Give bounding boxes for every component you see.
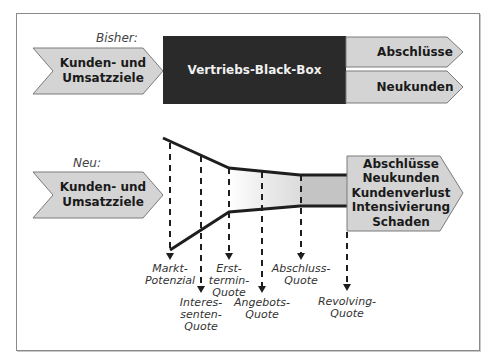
stage-label-angebots-quote: Angebots- Quote xyxy=(227,297,297,321)
section-label-after: Neu: xyxy=(73,156,101,170)
after-output-item: Abschlüsse xyxy=(347,157,455,171)
stage-label-ersttermin-quote: Erst- termin- Quote xyxy=(199,263,259,299)
before-output-1-text: Abschlüsse xyxy=(370,45,460,59)
section-label-before: Bisher: xyxy=(96,31,138,45)
stage-label-abschluss-quote: Abschluss- Quote xyxy=(266,263,336,287)
funnel-bottom-edge xyxy=(170,206,347,250)
black-box-text: Vertriebs-Black-Box xyxy=(163,63,346,77)
after-output-item: Kundenverlust xyxy=(347,186,455,200)
funnel-top-edge xyxy=(163,138,347,175)
funnel-neck xyxy=(300,175,347,206)
stage-label-interessenten-quote: Interes- senten- Quote xyxy=(171,297,231,333)
after-outputs-list: Abschlüsse Neukunden Kundenverlust Inten… xyxy=(347,157,455,229)
after-input-text: Kunden- und Umsatzziele xyxy=(48,180,158,210)
before-output-2-text: Neukunden xyxy=(370,80,460,94)
stage-label-revolving-quote: Revolving- Quote xyxy=(312,296,382,320)
after-output-item: Intensivierung xyxy=(347,200,455,214)
stage-label-markt-potenzial: Markt- Potenzial xyxy=(140,263,200,287)
after-output-item: Neukunden xyxy=(347,171,455,185)
before-input-text: Kunden- und Umsatzziele xyxy=(48,56,158,86)
after-output-item: Schaden xyxy=(347,215,455,229)
